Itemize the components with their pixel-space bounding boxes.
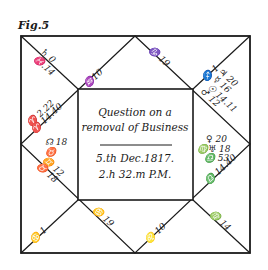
question-time: 2.h 32.m P.M. <box>98 168 171 180</box>
house-6-cusp: ♍ 14 <box>208 207 234 232</box>
house-4-cusp: ♋ 19 <box>91 203 117 228</box>
house-10-cusp: ♒10 <box>81 66 105 90</box>
house-9-cusp: ♑ 19 <box>147 43 173 68</box>
diag-bl <box>21 200 78 253</box>
question-title-1: Question on a <box>98 106 172 119</box>
house-7-planet-1: ♀ 20 <box>206 134 227 144</box>
house-1-node: ☊ 18 <box>45 137 68 147</box>
house-3-cusp: ♋ 1 <box>27 224 49 245</box>
question-title-2: removal of Business <box>82 121 190 133</box>
question-date: 5.th Dec.1817. <box>96 152 174 164</box>
figure-label: Fig.5 <box>17 19 49 32</box>
house-5-cusp: ♌ 10 <box>142 220 168 245</box>
horary-chart: Fig.5 Question on a removal of Business … <box>0 0 268 270</box>
